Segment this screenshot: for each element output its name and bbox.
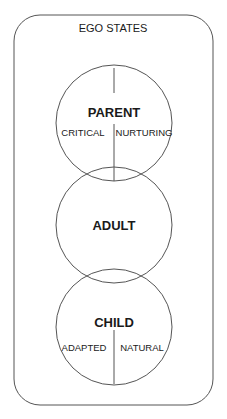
nurturing-label: NURTURING <box>116 127 173 138</box>
child-label: CHILD <box>94 315 134 330</box>
natural-label: NATURAL <box>120 342 164 353</box>
critical-label: CRITICAL <box>61 127 104 138</box>
parent-label: PARENT <box>88 105 140 120</box>
ego-states-diagram <box>0 0 227 419</box>
diagram-title: EGO STATES <box>79 22 148 34</box>
adult-label: ADULT <box>92 218 135 233</box>
adapted-label: ADAPTED <box>62 342 107 353</box>
